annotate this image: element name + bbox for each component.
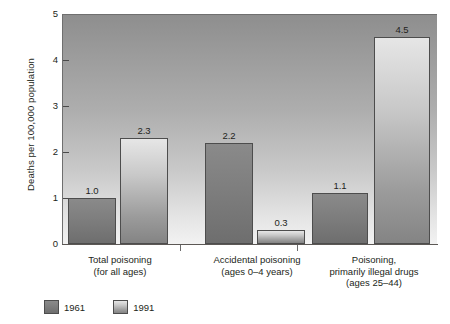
legend-item-1961[interactable]: 1961 (44, 300, 85, 314)
category-1-line-2: (for all ages) (55, 266, 185, 278)
y-tick-mark-4 (63, 60, 69, 61)
bar-1961-group-1[interactable] (68, 198, 116, 244)
legend-swatch-1961-icon (44, 300, 59, 314)
legend-label-1961: 1961 (64, 302, 85, 313)
y-tick-mark-2 (63, 152, 69, 153)
x-axis-separator-2 (297, 245, 298, 251)
category-1-line-1: Total poisoning (55, 254, 185, 266)
chart-root: Deaths per 100,000 population 012345 1.0… (0, 0, 450, 324)
bar-value-label-1991-group-2: 0.3 (257, 217, 305, 228)
x-axis-category-label-1: Total poisoning(for all ages) (55, 254, 185, 277)
y-tick-mark-3 (63, 106, 69, 107)
legend-item-1991[interactable]: 1991 (113, 300, 154, 314)
x-axis-separator-1 (180, 245, 181, 251)
bar-value-label-1961-group-1: 1.0 (68, 185, 116, 196)
category-3-line-1: Poisoning, (299, 254, 449, 266)
x-axis-category-label-3: Poisoning,primarily illegal drugs(ages 2… (299, 254, 449, 289)
y-axis-label: Deaths per 100,000 population (25, 0, 36, 250)
bar-value-label-1961-group-3: 1.1 (312, 180, 368, 191)
category-3-line-2: primarily illegal drugs (299, 266, 449, 278)
bar-1991-group-1[interactable] (120, 138, 168, 244)
category-3-line-3: (ages 25–44) (299, 277, 449, 289)
bar-1991-group-3[interactable] (374, 37, 430, 244)
bar-value-label-1961-group-2: 2.2 (205, 130, 253, 141)
legend: 1961 1991 (44, 300, 154, 314)
bar-value-label-1991-group-3: 4.5 (374, 24, 430, 35)
x-axis-line (62, 244, 438, 245)
y-axis-line (62, 14, 63, 245)
legend-swatch-1991-icon (113, 300, 128, 314)
legend-label-1991: 1991 (133, 302, 154, 313)
bar-1961-group-3[interactable] (312, 193, 368, 244)
bar-1961-group-2[interactable] (205, 143, 253, 244)
bar-value-label-1991-group-1: 2.3 (120, 125, 168, 136)
bar-1991-group-2[interactable] (257, 230, 305, 244)
